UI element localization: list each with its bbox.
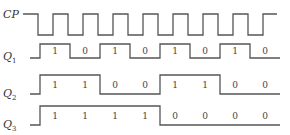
bit-value: 0 — [262, 80, 268, 90]
bit-value: 1 — [232, 46, 238, 56]
bit-value: 1 — [172, 80, 178, 90]
bit-value: 1 — [82, 111, 88, 121]
bit-value: 1 — [52, 111, 58, 121]
signal-label-q1: Q1 — [3, 50, 17, 65]
signal-q1: Q1 10101010 — [3, 44, 280, 65]
timing-diagram: CP Q1 10101010 Q2 11001100 Q3 11110000 — [0, 0, 290, 135]
signal-label-cp: CP — [3, 8, 19, 21]
bit-value: 1 — [112, 111, 118, 121]
signal-label-q2: Q2 — [3, 87, 17, 102]
signal-q2: Q2 11001100 — [3, 75, 280, 102]
bit-value: 0 — [202, 111, 208, 121]
bit-value: 0 — [262, 46, 268, 56]
bit-value: 0 — [232, 80, 238, 90]
signal-q3: Q3 11110000 — [3, 106, 280, 133]
q3-waveform — [30, 106, 280, 125]
bit-value: 1 — [52, 80, 58, 90]
bit-value: 0 — [232, 111, 238, 121]
signal-cp: CP — [3, 8, 277, 35]
signal-label-q3: Q3 — [3, 118, 17, 133]
bit-value: 0 — [202, 46, 208, 56]
bit-value: 0 — [112, 80, 118, 90]
bit-value: 1 — [52, 46, 58, 56]
bit-value: 1 — [202, 80, 208, 90]
bit-value: 0 — [82, 46, 88, 56]
bit-value: 1 — [142, 111, 148, 121]
bit-value: 1 — [112, 46, 118, 56]
bit-value: 0 — [142, 80, 148, 90]
bit-value: 1 — [172, 46, 178, 56]
bit-value: 0 — [172, 111, 178, 121]
bit-value: 1 — [82, 80, 88, 90]
bit-value: 0 — [262, 111, 268, 121]
clock-waveform — [23, 14, 277, 35]
q1-waveform — [30, 44, 280, 58]
bit-value: 0 — [142, 46, 148, 56]
q2-waveform — [30, 75, 280, 94]
